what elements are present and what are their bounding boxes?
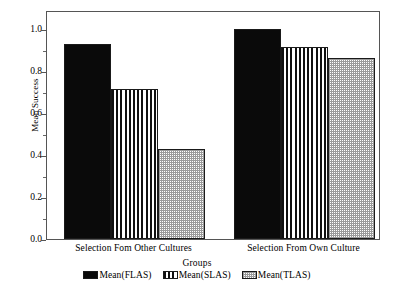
y-tick-label: 0.4 [16, 151, 42, 161]
bar [158, 149, 205, 239]
legend-label: Mean(FLAS) [99, 270, 151, 280]
legend-swatch [83, 271, 98, 279]
x-axis-title: Groups [0, 258, 394, 268]
legend-swatch [163, 271, 178, 279]
plot-area [47, 12, 379, 239]
y-tick-label: 0.2 [16, 193, 42, 203]
legend-swatch [242, 271, 257, 279]
y-tick-major [41, 114, 46, 115]
legend-entry: Mean(SLAS) [163, 270, 231, 280]
y-tick-minor [43, 219, 46, 220]
y-tick-minor [43, 135, 46, 136]
y-tick-label: 0.6 [16, 109, 42, 119]
y-tick-major [41, 156, 46, 157]
y-tick-major [41, 198, 46, 199]
legend-label: Mean(SLAS) [179, 270, 231, 280]
bar [234, 29, 281, 239]
y-axis-tick-labels: 0.00.20.40.60.81.0 [12, 0, 42, 289]
bar [64, 44, 111, 239]
legend-entry: Mean(TLAS) [242, 270, 311, 280]
y-tick-major [41, 72, 46, 73]
y-tick-minor [43, 177, 46, 178]
y-tick-major [41, 240, 46, 241]
y-tick-major [41, 30, 46, 31]
y-tick-minor [43, 51, 46, 52]
bar-chart-figure: Mean Success 0.00.20.40.60.81.0 Groups M… [0, 0, 394, 289]
legend-label: Mean(TLAS) [258, 270, 311, 280]
x-group-label: Selection Fom Other Cultures [54, 243, 214, 253]
y-tick-label: 0.0 [16, 235, 42, 245]
y-tick-minor [43, 93, 46, 94]
bar [111, 89, 158, 239]
chart-legend: Mean(FLAS)Mean(SLAS)Mean(TLAS) [0, 270, 394, 280]
y-tick-label: 0.8 [16, 67, 42, 77]
y-tick-label: 1.0 [16, 25, 42, 35]
bar [328, 58, 375, 239]
bar [281, 47, 328, 239]
plot-frame [46, 11, 380, 240]
x-group-label: Selection From Own Culture [224, 243, 384, 253]
legend-entry: Mean(FLAS) [83, 270, 151, 280]
